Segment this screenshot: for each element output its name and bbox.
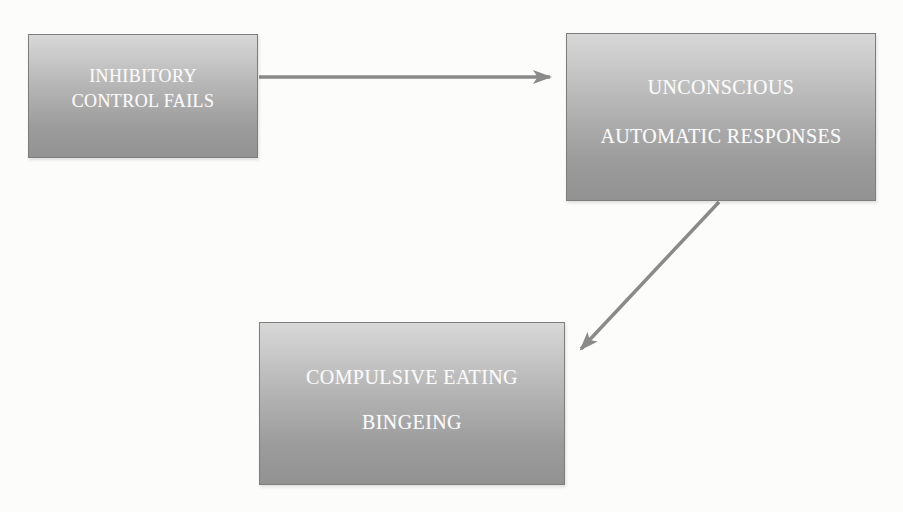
node-text-line: INHIBITORY [89,66,197,87]
node-text-line: AUTOMATIC RESPONSES [600,125,841,148]
node-text-line: COMPULSIVE EATING [306,366,518,389]
node-text-line: BINGEING [362,411,462,434]
node-text-line: UNCONSCIOUS [648,76,795,99]
node-inhibitory-control-fails: INHIBITORY CONTROL FAILS [28,34,258,158]
node-compulsive-eating-bingeing: COMPULSIVE EATING BINGEING [259,322,565,485]
arrow-unconscious-to-compulsive [581,202,719,349]
node-unconscious-automatic-responses: UNCONSCIOUS AUTOMATIC RESPONSES [566,33,876,201]
diagram-canvas: INHIBITORY CONTROL FAILS UNCONSCIOUS AUT… [0,0,903,512]
node-text-line: CONTROL FAILS [72,91,215,112]
